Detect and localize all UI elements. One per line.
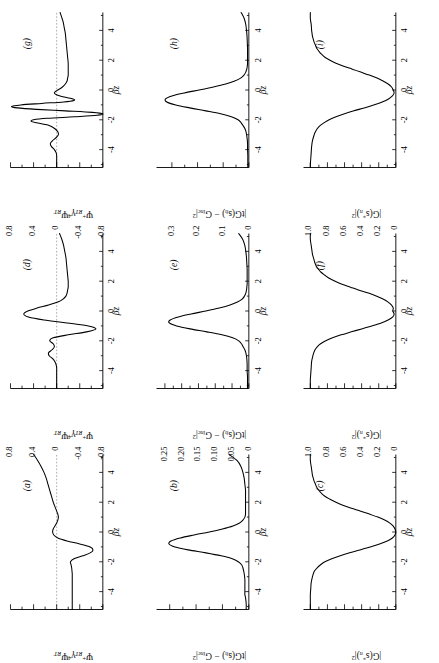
x-tick-label: -4	[107, 588, 115, 595]
x-tick-label: 4	[254, 249, 262, 253]
y-tick-label: 0	[52, 446, 60, 450]
y-tick-label: 0.8	[6, 225, 14, 235]
y-tick-label: -0.8	[98, 225, 106, 238]
panel-tag-i: (i)	[313, 40, 324, 49]
y-tick-label: 0.6	[339, 446, 347, 456]
y-axis-label-text: |G(s*n)|2	[351, 651, 381, 662]
figure-stage: 0.80.40-0.4-0.8-4-2024βzΨ+RTγ4ΨRT(a)0.80…	[0, 0, 439, 663]
y-tick-label: 0.25	[161, 446, 169, 461]
x-tick-label: 4	[107, 470, 115, 474]
y-tick-label: 0.10	[211, 446, 219, 461]
y-axis-label-b: |tG(sh) − Ginc|2	[166, 651, 220, 662]
y-tick-label: 0	[244, 225, 252, 229]
y-tick-label: 0.8	[322, 225, 330, 235]
panel-tag-h: (h)	[167, 37, 178, 48]
x-tick-label: 2	[254, 279, 262, 283]
x-tick-label: -4	[107, 146, 115, 153]
y-tick-label: -0.4	[75, 446, 83, 459]
x-tick-label: -4	[400, 588, 408, 595]
x-tick-label: 4	[107, 249, 115, 253]
y-tick-label: 0	[52, 225, 60, 229]
y-axis-label-i: |G(s*n)|2	[336, 209, 366, 220]
y-tick-label: 0.8	[322, 446, 330, 456]
x-tick-label: -4	[107, 367, 115, 374]
y-axis-label-d: Ψ+RTγ4ΨRT	[34, 430, 73, 441]
panel-d: 0.80.40-0.4-0.8-4-2024βzΨ+RTγ4ΨRT(d)	[0, 221, 146, 442]
y-tick-label: 0.4	[29, 225, 37, 235]
panel-tag-f: (f)	[313, 261, 324, 270]
panel-tag-g: (g)	[20, 37, 31, 48]
x-axis-label-g: βz	[109, 85, 120, 94]
x-tick-label: 2	[254, 500, 262, 504]
y-tick-label: 0.3	[168, 225, 176, 235]
y-tick-label: 0.1	[219, 225, 227, 235]
y-axis-label-text: |G(s*n)|2	[351, 209, 381, 220]
y-tick-label: -0.8	[98, 446, 106, 459]
panel-h: 0.30.20.10-4-2024βz|tG(sh) − Ginc|2(h)	[146, 0, 292, 221]
panel-a: 0.80.40-0.4-0.8-4-2024βzΨ+RTγ4ΨRT(a)	[0, 442, 146, 663]
y-axis-label-text: Ψ+RTγ4ΨRT	[54, 651, 93, 662]
x-tick-label: -2	[254, 337, 262, 344]
x-tick-label: -4	[400, 367, 408, 374]
x-axis-label-i: βz	[402, 85, 413, 94]
x-tick-label: 4	[400, 249, 408, 253]
x-tick-label: -2	[107, 116, 115, 123]
y-tick-label: 0.15	[194, 446, 202, 461]
x-axis-label-a: βz	[109, 527, 120, 536]
y-tick-label: 0	[244, 446, 252, 450]
x-tick-label: -2	[400, 116, 408, 123]
panel-tag-d: (d)	[20, 258, 31, 269]
y-tick-label: 0.05	[228, 446, 236, 461]
x-tick-label: 4	[254, 470, 262, 474]
x-axis-label-c: βz	[402, 527, 413, 536]
x-tick-label: -4	[254, 367, 262, 374]
panel-b: 0.120.080.040-4-2024βz|tG(sh) − Ginc|2(b…	[146, 442, 292, 663]
x-tick-label: -2	[107, 558, 115, 565]
x-tick-label: 2	[400, 500, 408, 504]
x-tick-label: 4	[107, 28, 115, 32]
x-tick-label: 2	[254, 58, 262, 62]
y-axis-label-e: |tG(sh) − Ginc|2	[166, 430, 220, 441]
rotated-figure: 0.80.40-0.4-0.8-4-2024βzΨ+RTγ4ΨRT(a)0.80…	[0, 0, 439, 663]
panel-f: 1.00.80.60.40.20-4-2024βz|G(s*n)|2(f)	[293, 221, 439, 442]
y-tick-label: 0	[391, 446, 399, 450]
y-tick-label: 0.4	[357, 225, 365, 235]
x-tick-label: 2	[400, 279, 408, 283]
x-tick-label: 4	[254, 28, 262, 32]
y-axis-label-text: Ψ+RTγ4ΨRT	[54, 209, 93, 220]
y-tick-label: 0.8	[6, 446, 14, 456]
x-tick-label: 4	[400, 28, 408, 32]
x-tick-label: -2	[400, 558, 408, 565]
x-tick-label: -4	[254, 588, 262, 595]
y-axis-label-a: Ψ+RTγ4ΨRT	[34, 651, 73, 662]
y-tick-label: 1.0	[305, 225, 313, 235]
y-tick-label: 0.6	[339, 225, 347, 235]
y-axis-label-text: |G(s*n)|2	[351, 430, 381, 441]
x-tick-label: -2	[254, 116, 262, 123]
x-tick-label: -2	[400, 337, 408, 344]
panel-grid: 0.80.40-0.4-0.8-4-2024βzΨ+RTγ4ΨRT(a)0.80…	[0, 0, 439, 663]
x-tick-label: -4	[400, 146, 408, 153]
x-tick-label: -2	[254, 558, 262, 565]
y-tick-label: -0.4	[75, 225, 83, 238]
y-tick-label: 0.2	[374, 225, 382, 235]
x-axis-label-d: βz	[109, 306, 120, 315]
y-axis-label-c: |G(s*n)|2	[336, 651, 366, 662]
y-axis-label-f: |G(s*n)|2	[336, 430, 366, 441]
x-tick-label: 2	[107, 500, 115, 504]
x-tick-label: 2	[107, 279, 115, 283]
x-axis-label-b: βz	[256, 527, 267, 536]
x-axis-label-f: βz	[402, 306, 413, 315]
x-tick-label: 2	[107, 58, 115, 62]
y-axis-label-text: Ψ+RTγ4ΨRT	[54, 430, 93, 441]
x-axis-label-e: βz	[256, 306, 267, 315]
panel-i: 1.00.80.60.40.20-4-2024βz|G(s*n)|2(i)	[293, 0, 439, 221]
x-tick-label: -2	[107, 337, 115, 344]
x-tick-label: 4	[400, 470, 408, 474]
panel-g: 0.80.40-0.4-0.8-4-2024βzΨ+RTγ4ΨRT(g)	[0, 0, 146, 221]
y-axis-label-text: |tG(sh) − Ginc|2	[193, 651, 247, 662]
y-tick-label: 0.4	[29, 446, 37, 456]
panel-c: 1.00.80.60.40.20-4-2024βz|G(s*n)|2(c)	[293, 442, 439, 663]
x-tick-label: 2	[400, 58, 408, 62]
panel-tag-e: (e)	[167, 259, 178, 270]
